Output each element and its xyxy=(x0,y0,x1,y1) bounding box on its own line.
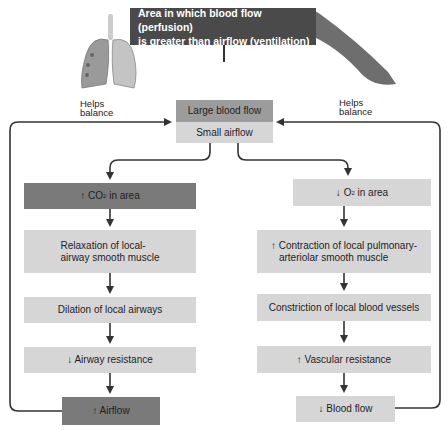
decrease-arrow-icon: ↓ xyxy=(336,187,341,199)
title-box: Area in which blood flow (perfusion) is … xyxy=(130,8,316,45)
o2-label: O xyxy=(344,187,352,199)
helps-balance-left-line2: balance xyxy=(80,108,113,117)
helps-balance-right: Helps balance xyxy=(339,98,372,116)
airflow-box: ↑ Airflow xyxy=(62,397,160,425)
blood-flow-box: ↓ Blood flow xyxy=(296,396,395,422)
relaxation-line-1: Relaxation of local- xyxy=(61,240,160,252)
co2-in-area-box: ↑ CO2 in area xyxy=(24,183,196,209)
title-line-1: Area in which blood flow (perfusion) xyxy=(138,6,312,34)
o2-suffix: in area xyxy=(355,187,388,199)
contraction-line-2: arteriolar smooth muscle xyxy=(271,252,417,264)
relaxation-line-2: airway smooth muscle xyxy=(61,252,160,264)
small-airflow-box: Small airflow xyxy=(176,122,273,143)
increase-arrow-icon: ↑ xyxy=(80,190,85,202)
co2-suffix: in area xyxy=(106,190,139,202)
helps-balance-left: Helps balance xyxy=(80,99,113,117)
o2-in-area-box: ↓ O2 in area xyxy=(293,179,431,206)
vascular-resistance-box: ↑ Vascular resistance xyxy=(257,346,431,373)
airway-resistance-box: ↓ Airway resistance xyxy=(24,347,196,373)
contraction-line-1: ↑ Contraction of local pulmonary- xyxy=(271,240,417,252)
helps-balance-right-line2: balance xyxy=(339,107,372,116)
dilation-box: Dilation of local airways xyxy=(24,297,196,323)
title-line-2: is greater than airflow (ventilation) xyxy=(138,34,312,48)
constriction-box: Constriction of local blood vessels xyxy=(257,294,431,321)
relaxation-box: Relaxation of local- airway smooth muscl… xyxy=(24,230,196,273)
contraction-box: ↑ Contraction of local pulmonary- arteri… xyxy=(257,230,431,273)
large-blood-flow-box: Large blood flow xyxy=(176,100,273,122)
co2-label: CO xyxy=(88,190,103,202)
